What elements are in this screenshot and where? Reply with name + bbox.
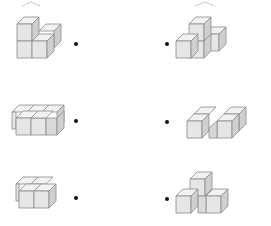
right-connector-dot-3[interactable] [165, 197, 169, 201]
right-figure-3[interactable] [176, 169, 236, 225]
left-connector-dot-1[interactable] [74, 42, 78, 46]
cube-zigzag-icon [180, 102, 264, 148]
left-connector-dot-3[interactable] [74, 196, 78, 200]
cropped-figure-edge [0, 0, 271, 6]
cube-stack-t-shape-icon [176, 14, 236, 74]
cube-row-flat-icon [8, 100, 72, 148]
left-figure-2[interactable] [8, 100, 72, 148]
left-figure-1[interactable] [14, 14, 64, 74]
cube-block-2x2-icon [14, 176, 64, 226]
right-connector-dot-2[interactable] [165, 120, 169, 124]
right-figure-1[interactable] [176, 14, 236, 74]
cube-stack-l-shape-icon [14, 14, 64, 74]
right-connector-dot-1[interactable] [165, 42, 169, 46]
left-figure-3[interactable] [14, 176, 64, 226]
cube-pyramid-icon [176, 169, 236, 225]
left-connector-dot-2[interactable] [74, 119, 78, 123]
right-figure-2[interactable] [180, 102, 264, 148]
